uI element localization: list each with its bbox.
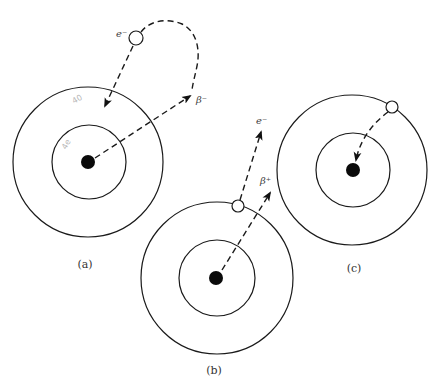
nucleus-a (81, 155, 95, 169)
electron-capture-arrow-a (105, 46, 133, 106)
electron-vacancy-b (232, 200, 244, 212)
pencil-mark-inner: 4e (60, 138, 73, 151)
panel-c: (c) (277, 95, 427, 275)
beta-label-b: β⁺ (259, 175, 271, 186)
nucleus-c (346, 163, 360, 177)
pencil-mark-outer: 40 (71, 93, 84, 106)
caption-c: (c) (347, 262, 362, 275)
electron-label-b: e⁻ (256, 115, 267, 126)
beta-label-a: β⁻ (195, 94, 207, 105)
beta-minus-arrow-a (95, 96, 190, 158)
nucleus-b (209, 271, 223, 285)
electron-capture-arrow-c (356, 112, 388, 160)
atomic-decay-diagram: e⁻ β⁻ 40 4e (a) e⁻ β⁺ (b) (c) (0, 0, 439, 385)
caption-a: (a) (77, 258, 92, 271)
electron-c (386, 101, 398, 113)
panel-a: e⁻ β⁻ 40 4e (a) (13, 21, 207, 271)
caption-b: (b) (206, 364, 222, 377)
electron-ejection-arrow-b (240, 132, 261, 200)
electron-loop-path-a (141, 21, 198, 90)
beta-plus-arrow-b (222, 193, 270, 270)
electron-a (129, 31, 143, 45)
electron-label-a: e⁻ (116, 28, 127, 39)
panel-b: e⁻ β⁺ (b) (141, 115, 293, 377)
